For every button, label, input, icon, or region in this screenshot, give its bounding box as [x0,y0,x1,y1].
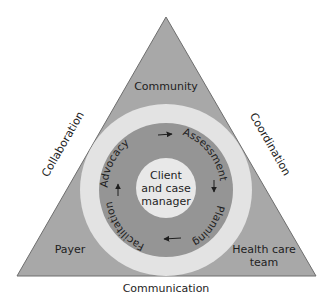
side-label-communication: Communication [123,282,210,295]
corner-label-payer: Payer [55,243,86,256]
corner-label-health-care: Health care [232,243,296,256]
center-label-line2: and case [141,182,191,195]
center-label-line3: manager [141,195,191,208]
corner-label-team: team [250,256,279,269]
center-label-line1: Client [150,169,183,182]
corner-label-community: Community [134,80,198,93]
case-management-diagram: Community Payer Health care team Collabo… [0,0,330,298]
